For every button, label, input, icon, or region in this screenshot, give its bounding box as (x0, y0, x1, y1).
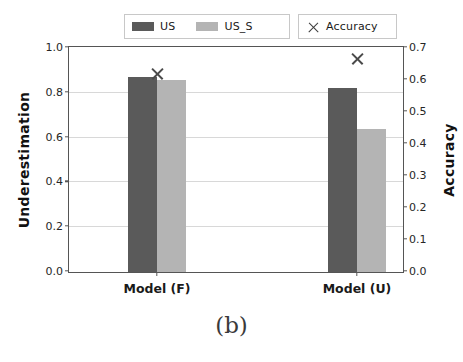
figure-caption: (b) (0, 312, 463, 338)
y-tick-label-left: 0.4 (46, 175, 64, 188)
legend-entry-us-s: US_S (196, 20, 252, 33)
accuracy-cross-marker-0 (150, 65, 165, 80)
y-axis-label-left-text: Underestimation (16, 91, 32, 228)
y-tick-label-right: 0.6 (409, 72, 427, 85)
y-tick-mark-right (403, 270, 407, 271)
y-tick-label-right: 0.0 (409, 264, 427, 277)
y-tick-mark-left (65, 136, 69, 137)
y-tick-label-left: 0.2 (46, 220, 64, 233)
plot-inner: 0.00.20.40.60.81.00.00.10.20.30.40.50.60… (69, 47, 403, 272)
y-tick-label-right: 0.3 (409, 168, 427, 181)
y-tick-mark-right (403, 78, 407, 79)
y-tick-label-right: 0.2 (409, 200, 427, 213)
figure-b: US US_S Accuracy Underestimation Accurac… (0, 0, 463, 362)
bar-us_s-1 (357, 129, 386, 272)
y-tick-mark-left (65, 225, 69, 226)
y-tick-label-right: 0.7 (409, 41, 427, 54)
y-tick-mark-right (403, 174, 407, 175)
x-tick-mark (356, 272, 357, 276)
y-tick-mark-left (65, 46, 69, 47)
y-tick-mark-right (403, 238, 407, 239)
legend-accuracy: Accuracy (298, 14, 397, 39)
legend-label-accuracy: Accuracy (326, 20, 378, 33)
bar-us-0 (128, 77, 157, 272)
bar-us-1 (328, 88, 357, 272)
y-tick-label-right: 0.1 (409, 232, 427, 245)
x-tick-label: Model (F) (123, 281, 190, 296)
x-tick-mark (156, 272, 157, 276)
y-axis-label-right: Accuracy (439, 46, 459, 273)
y-tick-mark-right (403, 142, 407, 143)
y-tick-label-left: 0.8 (46, 85, 64, 98)
y-tick-mark-left (65, 181, 69, 182)
y-tick-mark-right (403, 206, 407, 207)
y-tick-mark-left (65, 91, 69, 92)
legend-entry-accuracy: Accuracy (307, 20, 378, 33)
legend-label-us: US (160, 20, 175, 33)
y-tick-mark-right (403, 110, 407, 111)
accuracy-cross-marker-1 (350, 51, 365, 66)
legend-label-us-s: US_S (224, 20, 252, 33)
y-tick-label-right: 0.5 (409, 104, 427, 117)
legend-swatch-us-s (196, 22, 218, 31)
y-axis-label-right-text: Accuracy (441, 123, 457, 197)
y-axis-label-left: Underestimation (14, 46, 34, 273)
y-tick-label-right: 0.4 (409, 136, 427, 149)
bar-us_s-0 (157, 80, 186, 272)
y-tick-label-left: 0.6 (46, 130, 64, 143)
y-tick-mark-left (65, 270, 69, 271)
x-tick-label: Model (U) (323, 281, 392, 296)
y-tick-mark-right (403, 46, 407, 47)
legend-bars: US US_S (124, 14, 290, 39)
legend-entry-us: US (132, 20, 175, 33)
legend-swatch-us (132, 22, 154, 31)
y-tick-label-left: 1.0 (46, 41, 64, 54)
plot-area: 0.00.20.40.60.81.00.00.10.20.30.40.50.60… (68, 46, 404, 273)
y-tick-label-left: 0.0 (46, 264, 64, 277)
cross-marker-icon (307, 20, 320, 33)
